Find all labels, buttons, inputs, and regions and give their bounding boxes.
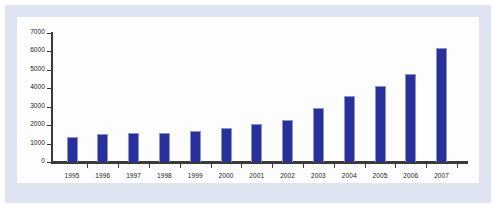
y-tick-label-wrap: 1000 <box>0 139 45 149</box>
bar-1997 <box>128 133 139 162</box>
x-tick-label-2005: 2005 <box>363 172 397 179</box>
y-tick-label-wrap: 6000 <box>0 46 45 56</box>
bar-chart-figure: 01000200030004000500060007000 1995199619… <box>0 0 496 208</box>
bar-2002 <box>282 120 293 162</box>
x-tick-mark <box>87 164 88 168</box>
bar-1996 <box>97 134 108 162</box>
y-tick-mark <box>47 33 52 34</box>
bar-2007 <box>436 48 447 162</box>
bar-1995 <box>67 137 78 162</box>
x-tick-label-2002: 2002 <box>271 172 305 179</box>
bar-1999 <box>190 131 201 162</box>
x-tick-mark <box>118 164 119 168</box>
y-tick-mark <box>47 51 52 52</box>
x-tick-mark <box>334 164 335 168</box>
y-tick-mark <box>47 125 52 126</box>
x-tick-mark <box>211 164 212 168</box>
chart-plot-area: 01000200030004000500060007000 1995199619… <box>0 0 496 208</box>
y-tick-mark <box>47 144 52 145</box>
x-tick-label-1996: 1996 <box>86 172 120 179</box>
y-tick-label-wrap: 4000 <box>0 83 45 93</box>
y-tick-label-wrap: 3000 <box>0 102 45 112</box>
bar-2001 <box>251 124 262 162</box>
bar-2003 <box>313 108 324 162</box>
x-tick-label-1999: 1999 <box>178 172 212 179</box>
y-tick-label-wrap: 2000 <box>0 120 45 130</box>
y-tick-mark <box>47 70 52 71</box>
y-tick-label: 5000 <box>3 65 45 72</box>
y-tick-label: 1000 <box>3 139 45 146</box>
x-tick-mark <box>426 164 427 168</box>
y-tick-mark <box>47 107 52 108</box>
y-tick-label-wrap: 7000 <box>0 28 45 38</box>
x-tick-label-2000: 2000 <box>209 172 243 179</box>
x-tick-label-2006: 2006 <box>394 172 428 179</box>
y-tick-label: 2000 <box>3 120 45 127</box>
x-tick-label-2001: 2001 <box>240 172 274 179</box>
x-tick-mark <box>149 164 150 168</box>
bar-1998 <box>159 133 170 162</box>
y-tick-mark <box>47 88 52 89</box>
bar-2004 <box>344 96 355 162</box>
x-tick-label-1997: 1997 <box>117 172 151 179</box>
x-tick-label-1998: 1998 <box>147 172 181 179</box>
bar-2000 <box>221 128 232 162</box>
y-tick-label: 7000 <box>3 28 45 35</box>
x-tick-label-2003: 2003 <box>301 172 335 179</box>
x-tick-mark <box>180 164 181 168</box>
x-tick-mark <box>395 164 396 168</box>
x-tick-label-2004: 2004 <box>332 172 366 179</box>
x-tick-label-2007: 2007 <box>425 172 459 179</box>
bar-2005 <box>375 86 386 162</box>
x-tick-label-1995: 1995 <box>55 172 89 179</box>
y-tick-label: 6000 <box>3 46 45 53</box>
x-tick-mark <box>457 164 458 168</box>
y-tick-label-wrap: 5000 <box>0 65 45 75</box>
y-tick-label: 4000 <box>3 83 45 90</box>
x-tick-mark <box>303 164 304 168</box>
x-tick-mark <box>272 164 273 168</box>
x-tick-mark <box>241 164 242 168</box>
x-tick-mark <box>365 164 366 168</box>
y-tick-mark <box>47 162 52 163</box>
y-tick-label: 0 <box>3 157 45 164</box>
bar-2006 <box>405 74 416 162</box>
y-tick-label: 3000 <box>3 102 45 109</box>
y-tick-label-wrap: 0 <box>0 157 45 167</box>
